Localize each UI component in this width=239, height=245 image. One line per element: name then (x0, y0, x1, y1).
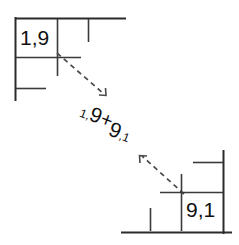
bottom-right-grid-corner (121, 150, 232, 234)
cell-label-bottom-right: 9,1 (186, 199, 215, 220)
arrow-down-right (57, 53, 106, 96)
diagram-canvas: 1,9 9,1 1,9+9,1 (0, 0, 239, 245)
arrow-up-left-shaft (142, 156, 184, 194)
arrow-down-right-head (99, 88, 106, 96)
cell-label-top-left: 1,9 (20, 27, 49, 48)
arrow-down-right-shaft (57, 53, 104, 94)
arrow-up-left (140, 156, 185, 195)
